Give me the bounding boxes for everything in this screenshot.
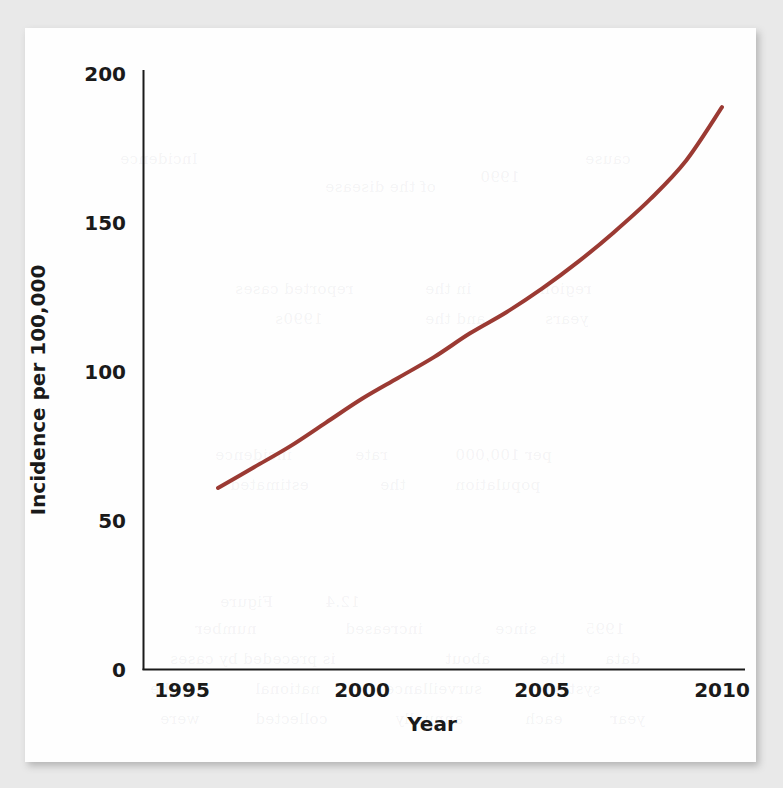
y-tick-label-100: 100 [76, 360, 126, 384]
incidence-line-series [218, 107, 722, 488]
x-axis-title: Year [407, 712, 457, 736]
y-tick-label-150: 150 [76, 211, 126, 235]
chart-figure: 0 50 100 150 200 1995 2000 2005 2010 Inc… [0, 0, 783, 788]
x-tick-label-2010: 2010 [694, 678, 750, 702]
x-tick-label-1995: 1995 [154, 678, 210, 702]
y-tick-label-200: 200 [76, 62, 126, 86]
y-tick-label-50: 50 [76, 509, 126, 533]
y-axis-title: Incidence per 100,000 [26, 265, 50, 516]
y-tick-label-0: 0 [76, 658, 126, 682]
x-tick-label-2005: 2005 [514, 678, 570, 702]
x-tick-label-2000: 2000 [334, 678, 390, 702]
